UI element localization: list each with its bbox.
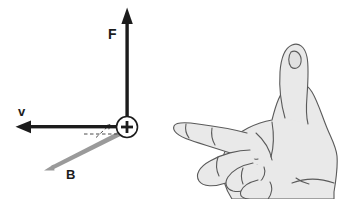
hand-thumbnail [289,51,301,68]
figure-canvas: F v B [0,0,349,199]
vector-label-B: B [66,168,75,181]
vector-label-F: F [108,27,117,41]
vector-label-v: v [18,105,25,118]
right-hand-illustration [0,0,349,199]
